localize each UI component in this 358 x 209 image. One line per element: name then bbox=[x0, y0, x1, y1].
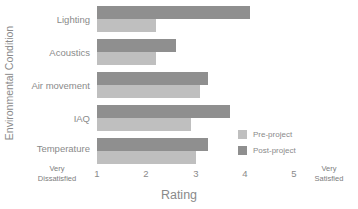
x-axis-high-line1: Very bbox=[315, 164, 344, 174]
x-tick-label-1: 1 bbox=[94, 168, 99, 179]
y-tick-label-lighting: Lighting bbox=[16, 14, 90, 25]
y-tick-label-temperature: Temperature bbox=[16, 143, 90, 154]
bar-acoustics-pre bbox=[97, 52, 156, 65]
bar-lighting-post bbox=[97, 6, 250, 19]
x-axis-low-anchor-label: Very Dissatisfied bbox=[38, 164, 76, 183]
y-tick-label-acoustics: Acoustics bbox=[16, 47, 90, 58]
y-tick-label-iaq: IAQ bbox=[16, 113, 90, 124]
x-axis-high-anchor-label: Very Satisfied bbox=[315, 164, 344, 183]
y-axis-title-text: Environmental Condition bbox=[3, 26, 15, 140]
bar-acoustics-post bbox=[97, 39, 176, 52]
bar-air-movement-pre bbox=[97, 85, 200, 98]
bar-iaq-pre bbox=[97, 118, 191, 131]
legend-label-post-project: Post-project bbox=[253, 146, 296, 155]
x-axis-low-line1: Very bbox=[38, 164, 76, 174]
bar-lighting-pre bbox=[97, 19, 156, 32]
x-tick-label-3: 3 bbox=[193, 168, 198, 179]
legend-item-pre-project: Pre-project bbox=[238, 127, 296, 141]
bar-air-movement-post bbox=[97, 72, 208, 85]
x-axis: Very Dissatisfied 1 2 3 4 5 Very Satisfi… bbox=[0, 166, 358, 209]
legend-item-post-project: Post-project bbox=[238, 143, 296, 157]
legend-swatch-pre-project bbox=[238, 130, 247, 139]
x-axis-title: Rating bbox=[0, 188, 358, 202]
bar-chart-figure: Environmental Condition Lighting Acousti… bbox=[0, 0, 358, 209]
y-axis-tick-labels: Lighting Acoustics Air movement IAQ Temp… bbox=[18, 0, 94, 166]
x-axis-high-line2: Satisfied bbox=[315, 174, 344, 184]
x-axis-low-line2: Dissatisfied bbox=[38, 174, 76, 184]
legend-swatch-post-project bbox=[238, 146, 247, 155]
legend-label-pre-project: Pre-project bbox=[253, 130, 292, 139]
bar-iaq-post bbox=[97, 105, 230, 118]
legend: Pre-project Post-project bbox=[238, 127, 296, 159]
bar-temperature-pre bbox=[97, 151, 196, 164]
bar-temperature-post bbox=[97, 138, 208, 151]
y-tick-label-air-movement: Air movement bbox=[16, 80, 90, 91]
x-tick-label-4: 4 bbox=[242, 168, 247, 179]
x-tick-label-5: 5 bbox=[291, 168, 296, 179]
x-tick-label-2: 2 bbox=[143, 168, 148, 179]
